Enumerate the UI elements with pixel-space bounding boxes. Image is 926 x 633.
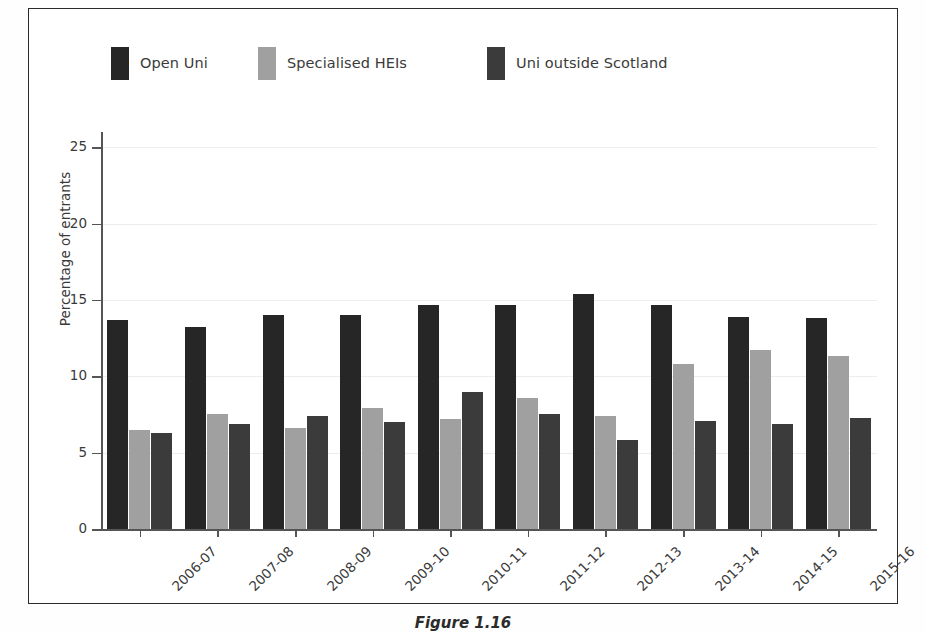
bar-uni-outside-scotland-2007-08 (229, 424, 250, 529)
x-axis-tick (373, 529, 375, 537)
bar-uni-outside-scotland-2013-14 (695, 421, 716, 529)
y-axis-tick: 5 (92, 453, 101, 455)
bar-uni-outside-scotland-2014-15 (772, 424, 793, 529)
bar-open-uni-2010-11 (418, 305, 439, 529)
bars-layer (101, 119, 877, 529)
bar-uni-outside-scotland-2009-10 (384, 422, 405, 529)
bar-uni-outside-scotland-2015-16 (850, 418, 871, 529)
x-axis-tick-label: 2015-16 (867, 543, 918, 594)
bar-uni-outside-scotland-2012-13 (617, 440, 638, 529)
y-axis-tick: 20 (92, 224, 101, 226)
bar-open-uni-2014-15 (728, 317, 749, 529)
legend-entry-open-uni: Open Uni (111, 47, 208, 80)
y-axis-tick-label: 0 (47, 520, 87, 536)
x-axis-tick (605, 529, 607, 537)
bar-uni-outside-scotland-2010-11 (462, 392, 483, 529)
y-axis-tick: 15 (92, 300, 101, 302)
bar-specialised-heis-2012-13 (595, 416, 616, 529)
bar-uni-outside-scotland-2008-09 (307, 416, 328, 529)
bar-open-uni-2008-09 (263, 315, 284, 529)
x-axis-tick (450, 529, 452, 537)
bar-specialised-heis-2013-14 (673, 364, 694, 529)
y-axis-tick-label: 15 (47, 291, 87, 307)
x-axis-tick-label: 2009-10 (401, 543, 452, 594)
x-axis-tick-label: 2008-09 (324, 543, 375, 594)
y-axis-tick: 10 (92, 376, 101, 378)
x-axis-tick (140, 529, 142, 537)
x-axis-tick-label: 2014-15 (789, 543, 840, 594)
bar-specialised-heis-2014-15 (750, 350, 771, 529)
y-axis-tick: 25 (92, 147, 101, 149)
chart-axes-area: 0510152025 2006-072007-082008-092009-102… (101, 119, 877, 529)
bar-open-uni-2006-07 (107, 320, 128, 529)
x-axis-tick (217, 529, 219, 537)
legend-label-uni-outside-scotland: Uni outside Scotland (516, 55, 668, 71)
x-axis-tick-label: 2011-12 (556, 543, 607, 594)
bar-open-uni-2012-13 (573, 294, 594, 529)
x-axis-tick-label: 2010-11 (479, 543, 530, 594)
x-axis-tick (683, 529, 685, 537)
bar-uni-outside-scotland-2006-07 (151, 433, 172, 529)
y-axis-tick-label: 25 (47, 138, 87, 154)
bar-open-uni-2015-16 (806, 318, 827, 529)
x-axis-tick-label: 2013-14 (712, 543, 763, 594)
bar-specialised-heis-2006-07 (129, 430, 150, 529)
legend-swatch-open-uni (111, 47, 129, 80)
y-axis-tick-label: 20 (47, 215, 87, 231)
bar-uni-outside-scotland-2011-12 (539, 414, 560, 529)
bar-specialised-heis-2009-10 (362, 408, 383, 529)
chart-plot-wrapper: Open Uni Specialised HEIs Uni outside Sc… (29, 9, 899, 605)
bar-specialised-heis-2011-12 (517, 398, 538, 529)
x-axis-tick-label: 2006-07 (168, 543, 219, 594)
x-axis-tick (528, 529, 530, 537)
legend-label-specialised-heis: Specialised HEIs (287, 55, 407, 71)
bar-open-uni-2009-10 (340, 315, 361, 529)
bar-open-uni-2007-08 (185, 327, 206, 529)
bar-specialised-heis-2007-08 (207, 414, 228, 529)
legend-entry-specialised-heis: Specialised HEIs (258, 47, 407, 80)
x-axis-tick (295, 529, 297, 537)
x-axis-tick (761, 529, 763, 537)
bar-specialised-heis-2010-11 (440, 419, 461, 529)
legend-swatch-uni-outside-scotland (487, 47, 505, 80)
legend-label-open-uni: Open Uni (140, 55, 208, 71)
bar-specialised-heis-2008-09 (285, 428, 306, 529)
y-axis-tick-label: 5 (47, 444, 87, 460)
figure-caption: Figure 1.16 (0, 614, 926, 633)
figure-frame: Open Uni Specialised HEIs Uni outside Sc… (28, 8, 898, 604)
bar-specialised-heis-2015-16 (828, 356, 849, 529)
y-axis-tick-label: 10 (47, 367, 87, 383)
y-axis-tick: 0 (92, 529, 101, 531)
x-axis-tick-label: 2012-13 (634, 543, 685, 594)
bar-open-uni-2011-12 (495, 305, 516, 529)
x-axis-tick-label: 2007-08 (246, 543, 297, 594)
bar-open-uni-2013-14 (651, 305, 672, 529)
figure-page: Open Uni Specialised HEIs Uni outside Sc… (0, 0, 926, 633)
y-axis-title: Percentage of entrants (57, 149, 73, 349)
legend-swatch-specialised-heis (258, 47, 276, 80)
chart-legend: Open Uni Specialised HEIs Uni outside Sc… (111, 43, 668, 83)
legend-entry-uni-outside-scotland: Uni outside Scotland (487, 47, 668, 80)
x-axis-tick (838, 529, 840, 537)
